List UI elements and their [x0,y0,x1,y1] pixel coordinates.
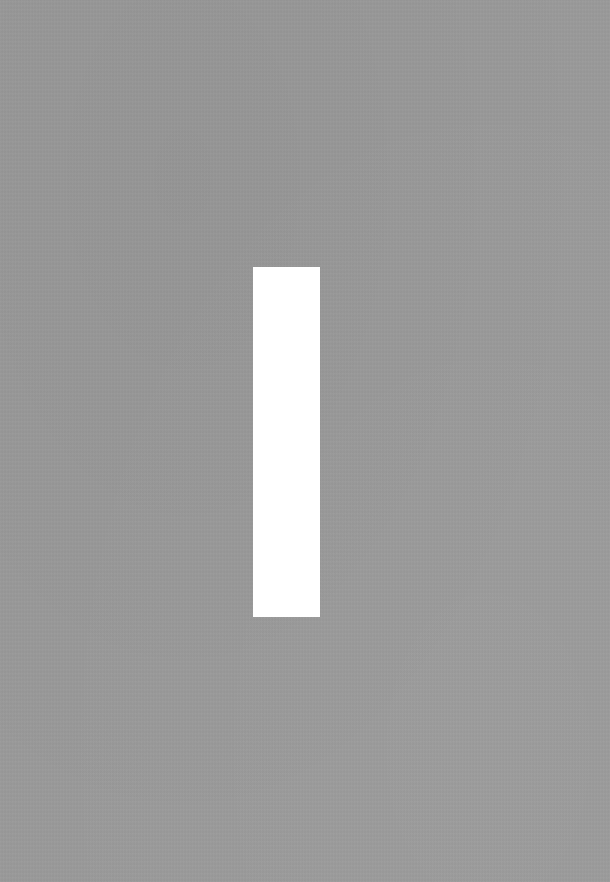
textured-gray-background [0,0,610,882]
white-vertical-rectangle [253,267,320,617]
